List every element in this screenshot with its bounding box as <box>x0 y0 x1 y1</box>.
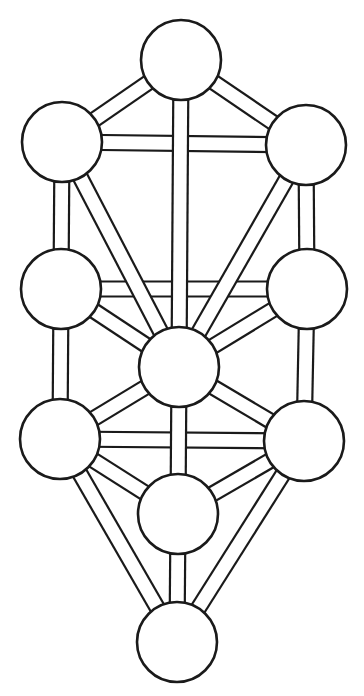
node-top <box>141 20 221 100</box>
node-upper-right <box>266 105 346 185</box>
node-middle-left <box>21 249 101 329</box>
node-lower-left <box>20 399 100 479</box>
node-lower-right <box>264 401 344 481</box>
channel-n1-n6 <box>172 60 189 367</box>
node-lower-center <box>138 474 218 554</box>
node-center <box>139 327 219 407</box>
node-bottom <box>137 602 217 682</box>
node-upper-left <box>22 102 102 182</box>
tree-of-life-diagram <box>0 0 364 696</box>
node-middle-right <box>267 249 347 329</box>
